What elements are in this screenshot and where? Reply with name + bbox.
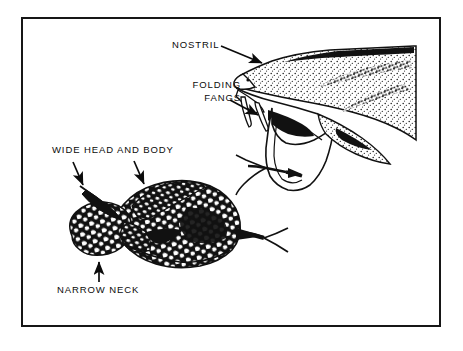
label-folding-fangs: FOLDING FANGS [167, 79, 241, 104]
label-nostril: NOSTRIL [172, 39, 219, 52]
arrow-wide-body [134, 161, 144, 184]
illustration-canvas: NOSTRIL FOLDING FANGS WIDE HEAD AND BODY… [0, 0, 463, 351]
label-folding-fangs-line2: FANGS [167, 92, 241, 105]
label-folding-fangs-line1: FOLDING [167, 79, 241, 92]
arrow-wide-head [73, 162, 83, 185]
snake-illustration-artwork [0, 0, 463, 351]
label-wide-head-and-body: WIDE HEAD AND BODY [52, 144, 174, 157]
label-narrow-neck: NARROW NECK [57, 284, 139, 297]
snake-coiled-body [70, 181, 288, 268]
snake-head-open-mouth [234, 46, 416, 195]
arrow-nostril [221, 46, 262, 63]
